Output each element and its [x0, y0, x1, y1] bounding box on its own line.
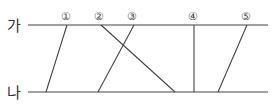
marker-1: ①	[61, 10, 71, 23]
marker-4: ④	[188, 10, 198, 23]
marker-5: ⑤	[241, 10, 251, 23]
marker-2: ②	[94, 10, 104, 23]
parallel-lines-diagram: 가 나 ① ② ③ ④ ⑤	[0, 0, 279, 105]
marker-3: ③	[127, 10, 137, 23]
label-ga: 가	[7, 17, 21, 35]
segment-1	[46, 25, 67, 92]
label-na: 나	[7, 84, 21, 102]
segment-3	[98, 25, 134, 92]
segment-2	[101, 25, 175, 92]
segment-5	[218, 25, 247, 92]
